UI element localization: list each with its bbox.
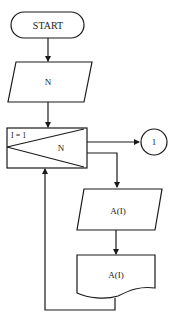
input-a-label: A(I)	[110, 206, 126, 216]
connector-label: 1	[152, 137, 157, 147]
input-n-label: N	[45, 77, 52, 87]
output-a-label: A(I)	[108, 270, 124, 280]
loop-init-label: I = 1	[11, 131, 26, 140]
loop-box-diagonal-bottom	[7, 147, 84, 167]
edge-return-to-loop	[45, 169, 115, 310]
edge-loop-to-body	[87, 153, 117, 187]
start-label: START	[33, 20, 63, 31]
flowchart-canvas: START N I = 1 N 1 A(I) A(I)	[0, 0, 170, 325]
loop-limit-label: N	[58, 143, 65, 153]
